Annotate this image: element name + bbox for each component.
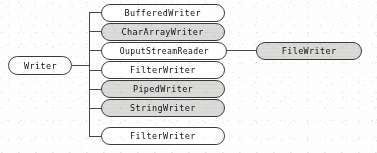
connector-stub-4 [89,70,101,71]
class-hierarchy-diagram: Writer BufferedWriter CharArrayWriter Ou… [0,0,377,153]
node-filewriter[interactable]: FileWriter [256,42,362,60]
node-chararraywriter[interactable]: CharArrayWriter [101,23,225,41]
node-pipedwriter-label: PipedWriter [133,84,193,94]
node-writer-label: Writer [24,61,57,71]
node-filterwriter-1-label: FilterWriter [130,65,196,75]
node-bufferedwriter-label: BufferedWriter [125,8,202,18]
node-stringwriter[interactable]: StringWriter [101,99,225,117]
connector-stub-1 [89,12,101,13]
node-ouputstreamreader[interactable]: OuputStreamReader [101,42,227,60]
connector-to-filewriter [226,50,256,51]
node-bufferedwriter[interactable]: BufferedWriter [101,4,225,22]
node-filewriter-label: FileWriter [282,46,337,56]
connector-stub-6 [89,108,101,109]
connector-root-to-trunk [72,65,89,66]
node-filterwriter-2[interactable]: FilterWriter [101,127,225,145]
connector-stub-3 [89,50,101,51]
connector-stub-2 [89,31,101,32]
connector-stub-5 [89,89,101,90]
node-pipedwriter[interactable]: PipedWriter [101,80,225,98]
node-filterwriter-2-label: FilterWriter [130,131,196,141]
node-filterwriter-1[interactable]: FilterWriter [101,61,225,79]
connector-stub-7 [89,136,101,137]
node-chararraywriter-label: CharArrayWriter [122,27,204,37]
node-writer[interactable]: Writer [8,56,72,75]
node-ouputstreamreader-label: OuputStreamReader [119,46,208,56]
node-stringwriter-label: StringWriter [130,103,196,113]
